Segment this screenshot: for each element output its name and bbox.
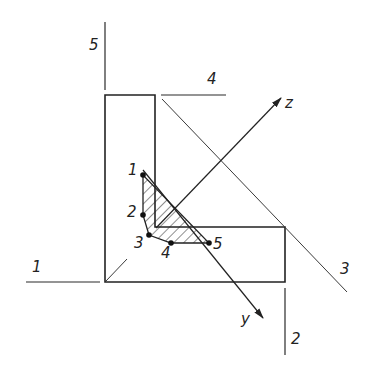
z-axis-label: z xyxy=(285,96,293,111)
hatched-region xyxy=(143,175,209,243)
reference-line-3-label: 3 xyxy=(340,262,350,277)
reference-line-5-label: 5 xyxy=(89,38,99,53)
diagram-canvas xyxy=(0,0,373,373)
reference-line-3 xyxy=(162,99,347,292)
reference-line-1-label: 1 xyxy=(32,260,42,275)
point-2-label: 2 xyxy=(127,205,137,220)
point-3 xyxy=(146,232,152,238)
point-5 xyxy=(206,240,212,246)
point-3-label: 3 xyxy=(134,236,144,251)
point-1-label: 1 xyxy=(128,163,138,178)
point-2 xyxy=(140,212,146,218)
reference-line-2-label: 2 xyxy=(291,332,301,347)
point-4-label: 4 xyxy=(161,246,171,261)
reference-line-4-label: 4 xyxy=(207,72,217,87)
corner-diagonal xyxy=(106,259,127,281)
angle-section-outline xyxy=(105,95,285,282)
point-5-label: 5 xyxy=(213,237,223,252)
y-axis-label: y xyxy=(241,312,250,327)
point-1 xyxy=(140,172,146,178)
